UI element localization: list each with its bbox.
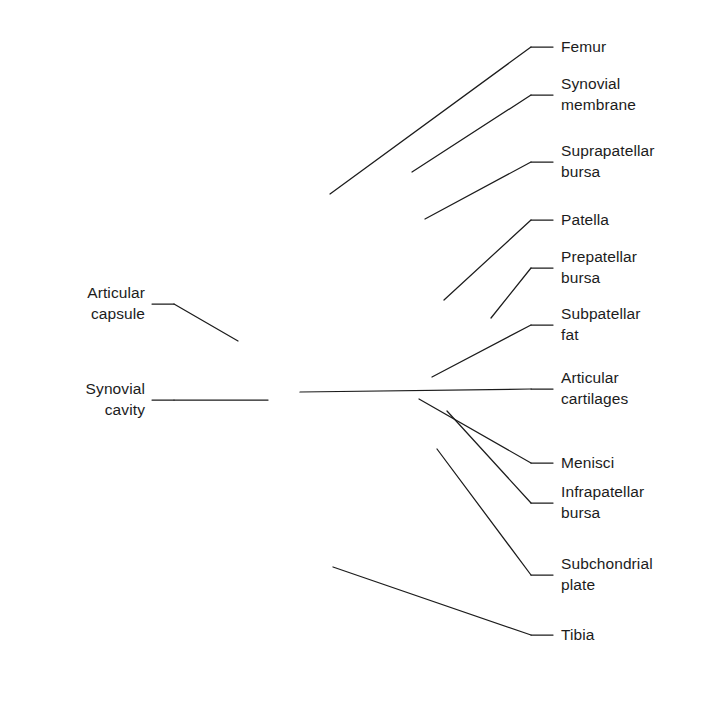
label-tibia: Tibia <box>561 624 595 645</box>
label-synovial-cavity-line-1: Synovial <box>86 378 145 399</box>
label-synovial-cavity: Synovialcavity <box>86 378 145 420</box>
label-articular-cartilages-line-1: Articular <box>561 367 628 388</box>
label-synovial-membrane-line-2: membrane <box>561 94 636 115</box>
label-articular-capsule-line-1: Articular <box>87 282 145 303</box>
prepatellar-bursa <box>485 262 503 350</box>
label-prepatellar-bursa-line-2: bursa <box>561 267 637 288</box>
label-patella-line-1: Patella <box>561 209 609 230</box>
label-articular-cartilages-line-2: cartilages <box>561 388 628 409</box>
label-synovial-cavity-line-2: cavity <box>86 399 145 420</box>
tibia <box>230 425 440 655</box>
label-femur-line-1: Femur <box>561 36 606 57</box>
label-subpatellar-fat-line-2: fat <box>561 324 641 345</box>
label-infrapatellar-bursa: Infrapatellarbursa <box>561 481 644 523</box>
label-synovial-membrane-line-1: Synovial <box>561 73 636 94</box>
label-subchondrial-plate-line-1: Subchondrial <box>561 553 653 574</box>
label-articular-cartilages: Articularcartilages <box>561 367 628 409</box>
label-synovial-membrane: Synovialmembrane <box>561 73 636 115</box>
label-menisci-line-1: Menisci <box>561 452 614 473</box>
label-subpatellar-fat: Subpatellarfat <box>561 303 641 345</box>
label-articular-capsule-line-2: capsule <box>87 303 145 324</box>
label-subchondrial-plate-line-2: plate <box>561 574 653 595</box>
label-suprapatellar-bursa: Suprapatellarbursa <box>561 140 655 182</box>
label-patella: Patella <box>561 209 609 230</box>
label-tibia-line-1: Tibia <box>561 624 595 645</box>
label-subpatellar-fat-line-1: Subpatellar <box>561 303 641 324</box>
label-prepatellar-bursa: Prepatellarbursa <box>561 246 637 288</box>
label-femur: Femur <box>561 36 606 57</box>
label-articular-capsule: Articularcapsule <box>87 282 145 324</box>
label-subchondrial-plate: Subchondrialplate <box>561 553 653 595</box>
label-prepatellar-bursa-line-1: Prepatellar <box>561 246 637 267</box>
label-menisci: Menisci <box>561 452 614 473</box>
tibia-trabeculae <box>230 425 440 655</box>
label-suprapatellar-bursa-line-1: Suprapatellar <box>561 140 655 161</box>
label-infrapatellar-bursa-line-2: bursa <box>561 502 644 523</box>
label-infrapatellar-bursa-line-1: Infrapatellar <box>561 481 644 502</box>
label-suprapatellar-bursa-line-2: bursa <box>561 161 655 182</box>
